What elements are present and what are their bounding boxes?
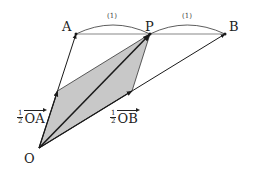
arc-PB (150, 25, 225, 34)
label-P: P (145, 20, 154, 33)
fraction-half: 1 2 (17, 110, 23, 125)
ratio-label-AP: (1) (107, 13, 117, 20)
fraction-half: 1 2 (110, 110, 116, 125)
label-half-OA: 1 2 OA (17, 110, 45, 125)
label-A: A (62, 20, 71, 33)
vector-OP (39, 34, 150, 148)
vector-name-OA: OA (24, 110, 44, 125)
label-B: B (229, 20, 239, 33)
label-O: O (24, 152, 35, 165)
ratio-label-PB: (1) (182, 13, 192, 20)
label-half-OB: 1 2 OB (110, 110, 138, 125)
point-B-dot (224, 33, 227, 36)
vector-name-OB: OB (117, 110, 137, 125)
arc-AP (76, 25, 150, 34)
vector-diagram (0, 0, 253, 182)
point-A-dot (75, 33, 78, 36)
